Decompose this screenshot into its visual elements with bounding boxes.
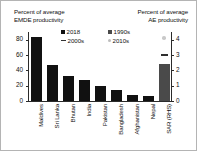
y-tick-right-3: 3 xyxy=(176,52,197,58)
x-axis xyxy=(28,101,172,102)
y-tickmark-right xyxy=(172,40,174,41)
overlay-marker-2010s xyxy=(162,36,166,40)
y-tickmark-right xyxy=(172,86,174,87)
y-tick-right-1: 1 xyxy=(176,82,197,88)
x-label-nepal: Nepal xyxy=(150,104,156,119)
x-label-afghanistan: Afghanistan xyxy=(134,104,140,135)
plot-area xyxy=(28,32,172,101)
y-tick-left-0: 0 xyxy=(0,98,23,104)
bar-bangladesh xyxy=(111,90,122,102)
x-label-bangladesh: Bangladesh xyxy=(118,104,124,135)
x-label-sar-rhs: SAR (RHS) xyxy=(166,104,172,134)
chart-title-right: Percent of average AE productivity xyxy=(138,8,188,23)
bar-pakistan xyxy=(95,86,106,101)
bar-india xyxy=(79,80,90,101)
x-label-sri-lanka: Sri Lanka xyxy=(54,104,60,128)
y-tick-right-2: 2 xyxy=(176,67,197,73)
y-tickmark-left xyxy=(26,101,28,102)
y-tick-left-80: 80 xyxy=(0,36,23,42)
y-tick-left-40: 40 xyxy=(0,67,23,73)
overlay-marker-2000s xyxy=(161,54,168,56)
y-tickmark-right xyxy=(172,101,174,102)
chart-title-left: Percent of average EMDE productivity xyxy=(14,8,64,23)
bar-afghanistan xyxy=(127,95,138,101)
x-label-maldives: Maldives xyxy=(38,104,44,127)
x-label-pakistan: Pakistan xyxy=(102,104,108,126)
x-label-bhutan: Bhutan xyxy=(70,104,76,122)
bar-sri-lanka xyxy=(47,65,58,101)
y-tick-right-4: 4 xyxy=(176,36,197,42)
chart-figure: Percent of average EMDE productivity Per… xyxy=(0,0,197,151)
y-tick-left-60: 60 xyxy=(0,52,23,58)
bar-maldives xyxy=(31,37,42,101)
y-tick-right-0: 0 xyxy=(176,98,197,104)
x-label-india: India xyxy=(86,104,92,116)
bar-sar-rhs xyxy=(159,64,170,101)
y-tickmark-right xyxy=(172,55,174,56)
bar-nepal xyxy=(143,96,154,101)
y-tickmark-right xyxy=(172,70,174,71)
bar-bhutan xyxy=(63,76,74,101)
y-tick-left-20: 20 xyxy=(0,82,23,88)
bar-series xyxy=(28,32,172,101)
